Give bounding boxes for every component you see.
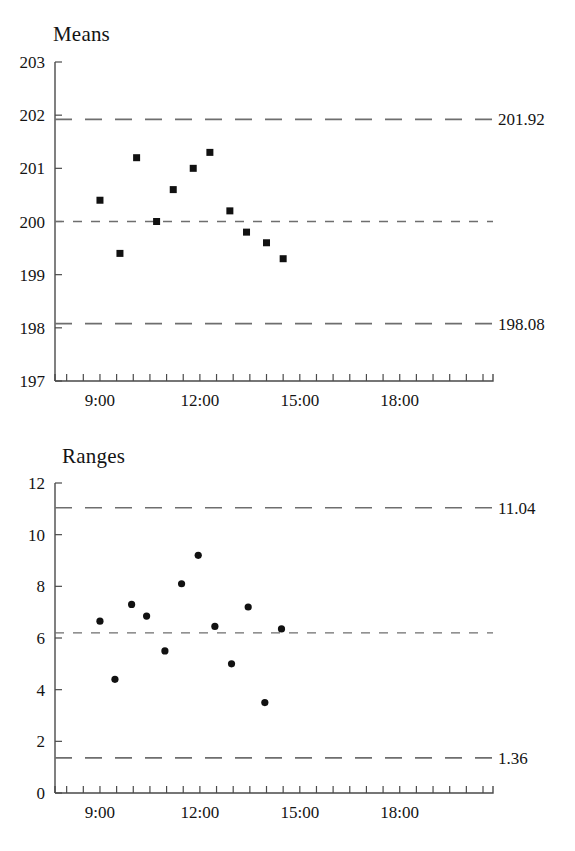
y-axis-tick-label: 4 bbox=[37, 681, 46, 700]
data-point-marker[interactable] bbox=[263, 239, 270, 246]
ranges-plot-area: 0246810129:0012:0015:0018:0011.041.36 bbox=[0, 425, 575, 851]
data-point-marker[interactable] bbox=[143, 612, 150, 619]
data-point-marker[interactable] bbox=[211, 623, 218, 630]
y-axis-tick-label: 199 bbox=[20, 266, 46, 285]
lower-control-limit-label: 198.08 bbox=[498, 315, 545, 334]
data-point-marker[interactable] bbox=[133, 154, 140, 161]
y-axis-tick-label: 202 bbox=[20, 106, 46, 125]
lower-control-limit-label: 1.36 bbox=[498, 749, 528, 768]
y-axis-tick-label: 0 bbox=[37, 784, 46, 803]
data-point-marker[interactable] bbox=[153, 218, 160, 225]
means-plot-area: 1971981992002012022039:0012:0015:0018:00… bbox=[0, 0, 575, 426]
data-point-marker[interactable] bbox=[226, 207, 233, 214]
data-point-marker[interactable] bbox=[190, 165, 197, 172]
y-axis-tick-label: 6 bbox=[37, 629, 46, 648]
data-point-marker[interactable] bbox=[111, 676, 118, 683]
x-axis-tick-label: 9:00 bbox=[85, 803, 115, 822]
data-point-marker[interactable] bbox=[195, 552, 202, 559]
y-axis-tick-label: 197 bbox=[20, 372, 46, 391]
x-axis-tick-label: 18:00 bbox=[380, 391, 419, 410]
x-axis-tick-label: 12:00 bbox=[181, 391, 220, 410]
x-axis-tick-label: 15:00 bbox=[280, 391, 319, 410]
data-point-marker[interactable] bbox=[278, 625, 285, 632]
ranges-control-chart: Ranges 0246810129:0012:0015:0018:0011.04… bbox=[0, 425, 575, 851]
x-axis-tick-label: 15:00 bbox=[280, 803, 319, 822]
data-point-marker[interactable] bbox=[161, 647, 168, 654]
data-point-marker[interactable] bbox=[170, 186, 177, 193]
data-point-marker[interactable] bbox=[178, 580, 185, 587]
x-axis-tick-label: 18:00 bbox=[380, 803, 419, 822]
y-axis-tick-label: 10 bbox=[28, 526, 45, 545]
y-axis-tick-label: 198 bbox=[20, 319, 46, 338]
y-axis-tick-label: 2 bbox=[37, 732, 46, 751]
upper-control-limit-label: 11.04 bbox=[498, 499, 536, 518]
data-point-marker[interactable] bbox=[243, 229, 250, 236]
x-axis-tick-label: 9:00 bbox=[85, 391, 115, 410]
y-axis-tick-label: 200 bbox=[20, 213, 46, 232]
data-point-marker[interactable] bbox=[228, 660, 235, 667]
y-axis-tick-label: 12 bbox=[28, 474, 45, 493]
data-point-marker[interactable] bbox=[96, 197, 103, 204]
data-point-marker[interactable] bbox=[128, 601, 135, 608]
data-point-marker[interactable] bbox=[96, 618, 103, 625]
data-point-marker[interactable] bbox=[245, 603, 252, 610]
y-axis-tick-label: 203 bbox=[20, 53, 46, 72]
data-point-marker[interactable] bbox=[116, 250, 123, 257]
upper-control-limit-label: 201.92 bbox=[498, 110, 545, 129]
means-control-chart: Means 1971981992002012022039:0012:0015:0… bbox=[0, 0, 575, 425]
data-point-marker[interactable] bbox=[280, 255, 287, 262]
x-axis-tick-label: 12:00 bbox=[181, 803, 220, 822]
y-axis-tick-label: 201 bbox=[20, 159, 46, 178]
data-point-marker[interactable] bbox=[206, 149, 213, 156]
data-point-marker[interactable] bbox=[261, 699, 268, 706]
y-axis-tick-label: 8 bbox=[37, 577, 46, 596]
